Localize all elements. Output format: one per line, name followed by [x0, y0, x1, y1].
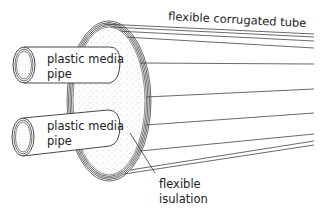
label-plastic-media-pipe-top-1: plastic media	[47, 52, 124, 66]
label-plastic-media-pipe-bottom-2: pipe	[47, 134, 72, 148]
pipe-diagram: flexible corrugated tube plastic media p…	[0, 0, 329, 221]
label-plastic-media-pipe-bottom-1: plastic media	[47, 119, 124, 133]
label-flexible-insulation-2: isulation	[159, 192, 208, 206]
label-plastic-media-pipe-top-2: pipe	[47, 67, 72, 81]
label-flexible-insulation-1: flexible	[159, 177, 201, 191]
label-flexible-corrugated-tube: flexible corrugated tube	[168, 9, 307, 30]
